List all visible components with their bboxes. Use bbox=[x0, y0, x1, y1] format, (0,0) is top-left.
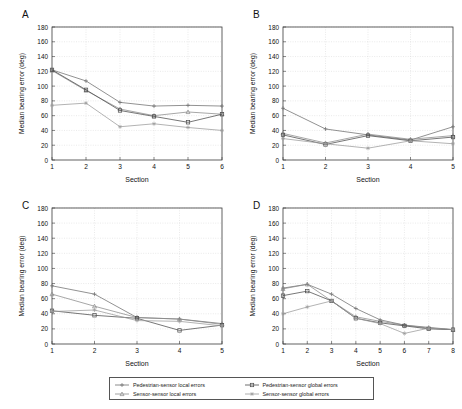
svg-text:3: 3 bbox=[118, 163, 122, 170]
svg-text:0: 0 bbox=[275, 341, 279, 348]
svg-text:120: 120 bbox=[37, 250, 48, 257]
svg-text:160: 160 bbox=[37, 220, 48, 227]
svg-text:Median bearing error (deg): Median bearing error (deg) bbox=[249, 236, 257, 317]
svg-text:80: 80 bbox=[272, 280, 280, 287]
legend-line-sample bbox=[244, 390, 260, 398]
svg-text:2: 2 bbox=[305, 347, 309, 354]
svg-text:160: 160 bbox=[268, 38, 279, 45]
svg-text:Median bearing error (deg): Median bearing error (deg) bbox=[18, 53, 26, 134]
svg-text:0: 0 bbox=[44, 157, 48, 164]
svg-text:20: 20 bbox=[41, 142, 49, 149]
svg-text:1: 1 bbox=[50, 163, 54, 170]
svg-text:120: 120 bbox=[268, 68, 279, 75]
svg-text:100: 100 bbox=[37, 265, 48, 272]
panel-a-plot: 020406080100120140160180123456SectionMed… bbox=[0, 0, 231, 200]
svg-text:180: 180 bbox=[37, 205, 48, 212]
svg-text:40: 40 bbox=[272, 127, 280, 134]
svg-text:20: 20 bbox=[272, 325, 280, 332]
legend-line-sample bbox=[114, 390, 130, 398]
svg-text:160: 160 bbox=[268, 220, 279, 227]
legend-entry: Sensor-sensor global errors bbox=[244, 390, 370, 398]
legend-entry: Pedestrian-sensor global errors bbox=[244, 381, 370, 389]
svg-text:2: 2 bbox=[93, 347, 97, 354]
legend: Pedestrian-sensor local errorsPedestrian… bbox=[109, 377, 374, 400]
svg-text:5: 5 bbox=[186, 163, 190, 170]
panel-c: C 02040608010012014016018012345SectionMe… bbox=[0, 196, 231, 376]
svg-text:40: 40 bbox=[41, 127, 49, 134]
svg-text:100: 100 bbox=[268, 265, 279, 272]
legend-line-sample bbox=[244, 381, 260, 389]
svg-text:4: 4 bbox=[152, 163, 156, 170]
legend-label: Pedestrian-sensor local errors bbox=[133, 381, 205, 389]
legend-label: Sensor-sensor global errors bbox=[263, 390, 330, 398]
svg-text:7: 7 bbox=[427, 347, 431, 354]
panel-d: D 02040608010012014016018012345678Sectio… bbox=[231, 196, 462, 376]
svg-text:100: 100 bbox=[268, 83, 279, 90]
svg-text:3: 3 bbox=[330, 347, 334, 354]
legend-line-sample bbox=[114, 381, 130, 389]
svg-text:180: 180 bbox=[268, 205, 279, 212]
svg-text:80: 80 bbox=[41, 97, 49, 104]
svg-text:6: 6 bbox=[403, 347, 407, 354]
panel-b: B 02040608010012014016018012345SectionMe… bbox=[231, 0, 462, 200]
svg-text:80: 80 bbox=[41, 280, 49, 287]
svg-text:Median bearing error (deg): Median bearing error (deg) bbox=[18, 236, 26, 317]
svg-text:20: 20 bbox=[41, 325, 49, 332]
svg-text:3: 3 bbox=[135, 347, 139, 354]
svg-text:6: 6 bbox=[220, 163, 224, 170]
panel-b-plot: 02040608010012014016018012345SectionMedi… bbox=[231, 0, 462, 200]
svg-text:140: 140 bbox=[37, 53, 48, 60]
svg-text:Section: Section bbox=[125, 176, 148, 183]
legend-label: Pedestrian-sensor global errors bbox=[263, 381, 338, 389]
svg-text:4: 4 bbox=[178, 347, 182, 354]
svg-text:3: 3 bbox=[366, 163, 370, 170]
svg-text:5: 5 bbox=[378, 347, 382, 354]
svg-text:160: 160 bbox=[37, 38, 48, 45]
svg-text:2: 2 bbox=[84, 163, 88, 170]
svg-text:20: 20 bbox=[272, 142, 280, 149]
svg-text:180: 180 bbox=[268, 24, 279, 31]
panel-c-plot: 02040608010012014016018012345SectionMedi… bbox=[0, 196, 231, 376]
panel-d-plot: 02040608010012014016018012345678SectionM… bbox=[231, 196, 462, 376]
svg-text:4: 4 bbox=[409, 163, 413, 170]
svg-text:5: 5 bbox=[220, 347, 224, 354]
panel-a: A 020406080100120140160180123456SectionM… bbox=[0, 0, 231, 200]
svg-text:60: 60 bbox=[272, 295, 280, 302]
svg-text:Section: Section bbox=[125, 360, 148, 367]
svg-text:180: 180 bbox=[37, 24, 48, 31]
svg-text:100: 100 bbox=[37, 83, 48, 90]
svg-text:1: 1 bbox=[281, 347, 285, 354]
svg-text:0: 0 bbox=[275, 157, 279, 164]
svg-text:1: 1 bbox=[50, 347, 54, 354]
svg-text:80: 80 bbox=[272, 97, 280, 104]
legend-entry: Pedestrian-sensor local errors bbox=[114, 381, 240, 389]
svg-text:Section: Section bbox=[356, 176, 379, 183]
svg-text:140: 140 bbox=[268, 235, 279, 242]
svg-text:120: 120 bbox=[37, 68, 48, 75]
svg-text:1: 1 bbox=[281, 163, 285, 170]
svg-text:Median bearing error (deg): Median bearing error (deg) bbox=[249, 53, 257, 134]
svg-text:120: 120 bbox=[268, 250, 279, 257]
legend-label: Sensor-sensor local errors bbox=[133, 390, 196, 398]
figure-root: A 020406080100120140160180123456SectionM… bbox=[0, 0, 462, 409]
svg-text:8: 8 bbox=[451, 347, 455, 354]
svg-text:60: 60 bbox=[41, 112, 49, 119]
svg-text:60: 60 bbox=[41, 295, 49, 302]
svg-text:140: 140 bbox=[268, 53, 279, 60]
svg-text:40: 40 bbox=[41, 310, 49, 317]
svg-text:140: 140 bbox=[37, 235, 48, 242]
svg-text:Section: Section bbox=[356, 360, 379, 367]
legend-entry: Sensor-sensor local errors bbox=[114, 390, 240, 398]
svg-text:4: 4 bbox=[354, 347, 358, 354]
svg-text:2: 2 bbox=[324, 163, 328, 170]
svg-text:5: 5 bbox=[451, 163, 455, 170]
svg-text:40: 40 bbox=[272, 310, 280, 317]
svg-text:0: 0 bbox=[44, 341, 48, 348]
svg-text:60: 60 bbox=[272, 112, 280, 119]
